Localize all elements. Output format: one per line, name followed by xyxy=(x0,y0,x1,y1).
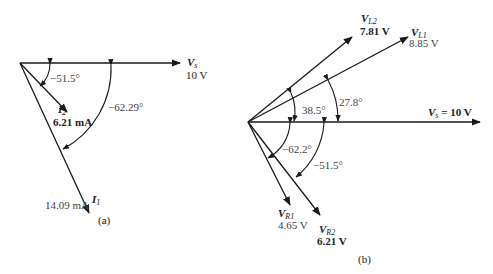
vr2-value: 6.21 V xyxy=(317,235,347,247)
vs-value-a: 10 V xyxy=(186,69,208,81)
angle-label-i2: −51.5° xyxy=(50,72,80,84)
caption-a: (a) xyxy=(98,214,110,226)
caption-b: (b) xyxy=(358,253,371,265)
vs-subscript-b: s xyxy=(435,111,438,120)
i1-label: I1 xyxy=(92,193,100,209)
vs-label-b: Vs = 10 V xyxy=(428,106,472,122)
vr1-phasor xyxy=(248,122,290,205)
i1-value: 14.09 mA xyxy=(45,199,89,211)
vl1-phasor xyxy=(248,37,408,122)
angle-label-vl1: 27.8° xyxy=(339,96,363,108)
angle-label-vr1: −62.2° xyxy=(282,143,312,155)
diagram-b xyxy=(248,37,480,215)
angle-label-i1: −62.29° xyxy=(108,101,143,113)
vs-value-b: = 10 V xyxy=(441,106,472,118)
angle-label-vl2: 38.5° xyxy=(302,104,326,116)
diagram-a xyxy=(20,63,180,213)
vr1-value: 4.65 V xyxy=(278,219,308,231)
vl2-value: 7.81 V xyxy=(360,25,390,37)
angle-arc-i2 xyxy=(40,64,50,86)
i1-subscript: 1 xyxy=(96,198,100,207)
angle-label-vr2: −51.5° xyxy=(313,159,343,171)
vl2-phasor xyxy=(248,37,352,122)
angle-arc-vl1 xyxy=(328,80,338,121)
vr2-phasor xyxy=(248,122,320,215)
vl1-value: 8.85 V xyxy=(409,37,439,49)
i2-value: 6.21 mA xyxy=(53,116,92,128)
